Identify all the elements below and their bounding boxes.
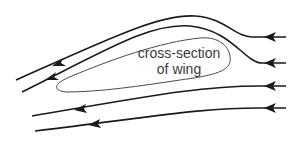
- airflow-diagram: cross-section of wing: [0, 0, 306, 143]
- streamline-3: [32, 86, 286, 116]
- wing-label-line1: cross-section: [124, 45, 234, 61]
- arrow-left-icon: [45, 72, 59, 80]
- wing-label-line2: of wing: [124, 61, 234, 77]
- streamline-4: [35, 108, 286, 131]
